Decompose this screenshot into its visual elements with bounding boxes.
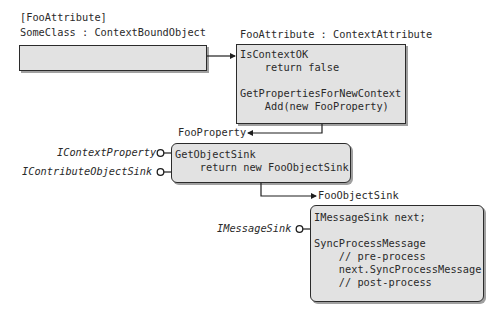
icontextproperty-interface-label: IContextProperty [57,146,156,158]
icontributeobjectsink-lollipop-icon [157,169,171,176]
icontributeobjectsink-interface-label: IContributeObjectSink [22,165,152,177]
imessagesink-interface-label: IMessageSink [217,222,291,234]
property-arrow [248,124,322,133]
foo-object-sink-label: FooObjectSink [318,189,399,201]
context-property-code: GetObjectSink return new FooObjectSink [175,148,349,174]
context-bound-object-box [19,45,207,71]
object-sink-code: IMessageSink next; SyncProcessMessage //… [314,211,481,289]
icontextproperty-lollipop-icon [157,150,171,157]
context-property-box: GetObjectSink return new FooObjectSink [171,143,351,183]
object-sink-arrow [261,183,316,196]
attribute-annotation-label: [FooAttribute] [20,11,107,23]
context-attribute-title: FooAttribute : ContextAttribute [240,28,432,40]
context-attribute-code: IsContextOK return false GetPropertiesFo… [240,48,401,113]
object-sink-box: IMessageSink next; SyncProcessMessage //… [310,205,484,302]
foo-property-label: FooProperty [178,126,246,138]
context-attribute-box: IsContextOK return false GetPropertiesFo… [236,44,406,124]
context-bound-class-label: SomeClass : ContextBoundObject [20,26,206,38]
imessagesink-lollipop-icon [296,226,310,233]
